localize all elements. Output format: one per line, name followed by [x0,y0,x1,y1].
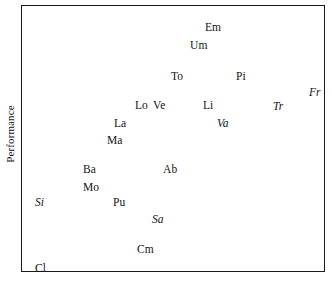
data-point-label: Si [35,197,44,209]
data-point-label: Mo [83,182,99,194]
data-point-label: Va [217,118,229,130]
data-point-label: Cl [35,263,46,275]
scatter-plot-figure: Performance EmUmToPiFrLoVeLiTrLaVaMaBaAb… [0,0,332,283]
data-point-label: Ve [153,100,165,112]
data-point-label: Em [205,22,221,34]
data-point-label: Um [190,40,207,52]
data-point-label: To [171,71,183,83]
plot-area: EmUmToPiFrLoVeLiTrLaVaMaBaAbMoSiPuSaCmCl [21,5,325,272]
data-point-label: Tr [273,101,283,113]
data-point-label: Lo [135,100,148,112]
data-point-label: Fr [309,87,321,99]
data-point-label: Sa [152,214,164,226]
y-axis-title-text: Performance [4,105,16,162]
data-point-label: Li [203,100,213,112]
data-point-label: Cm [137,244,154,256]
data-point-label: Ab [163,164,177,176]
data-point-label: Ba [83,164,96,176]
data-point-label: Pi [236,71,246,83]
data-point-label: La [114,118,126,130]
data-point-label: Pu [113,197,125,209]
y-axis-title: Performance [0,0,20,267]
data-point-label: Ma [107,135,123,147]
